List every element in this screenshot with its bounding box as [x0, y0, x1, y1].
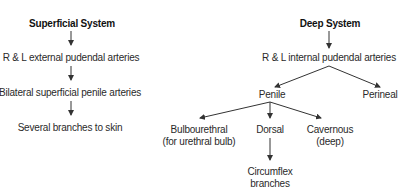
superficial-system-title: Superficial System — [29, 18, 115, 30]
perineal-node: Perineal — [362, 89, 397, 101]
dorsal-node: Dorsal — [256, 124, 284, 136]
bulbourethral-note: (for urethral bulb) — [163, 136, 236, 148]
cavernous-label: Cavernous — [307, 124, 354, 136]
arrow-icon — [275, 66, 329, 87]
bulbourethral-label: Bulbourethral — [163, 124, 236, 136]
cavernous-node: Cavernous (deep) — [307, 124, 354, 148]
arrow-icon — [200, 102, 270, 118]
circumflex-node: Circumflex branches — [247, 166, 292, 190]
arrow-icon — [270, 102, 321, 118]
external-pudendal-node: R & L external pudendal arteries — [3, 52, 140, 64]
superficial-penile-node: Bilateral superficial penile arteries — [0, 87, 141, 99]
cavernous-note: (deep) — [307, 136, 354, 148]
circumflex-label-line2: branches — [247, 178, 292, 190]
penile-node: Penile — [259, 89, 286, 101]
deep-system-title: Deep System — [300, 18, 361, 30]
skin-branches-node: Several branches to skin — [18, 122, 123, 134]
internal-pudendal-node: R & L internal pudendal arteries — [262, 52, 396, 64]
circumflex-label-line1: Circumflex — [247, 166, 292, 178]
arrow-icon — [329, 66, 380, 87]
bulbourethral-node: Bulbourethral (for urethral bulb) — [163, 124, 236, 148]
